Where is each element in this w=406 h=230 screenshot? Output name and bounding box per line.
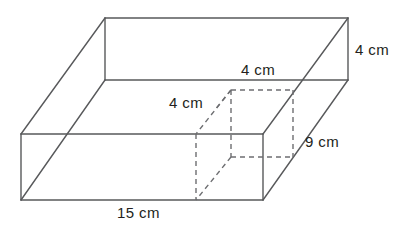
geometry-figure: 4 cm 4 cm 4 cm 9 cm 15 cm xyxy=(0,0,406,230)
dimension-label-length-bottom: 15 cm xyxy=(117,205,160,220)
cutout-leader-line xyxy=(214,90,231,111)
dimension-label-width-top: 4 cm xyxy=(241,62,275,77)
dimension-label-depth-right: 9 cm xyxy=(305,134,339,149)
edge-oblique-top-left xyxy=(21,18,105,134)
prism-cutout-edges xyxy=(196,90,293,200)
prism-drawing xyxy=(0,0,406,230)
edge-oblique-inner-left xyxy=(21,80,105,200)
edge-oblique-top-right xyxy=(263,18,348,134)
cutout-edge-oblique-bottom-left xyxy=(196,157,231,200)
dimension-label-cutout-side: 4 cm xyxy=(169,95,203,110)
dimension-label-height-right: 4 cm xyxy=(355,42,389,57)
